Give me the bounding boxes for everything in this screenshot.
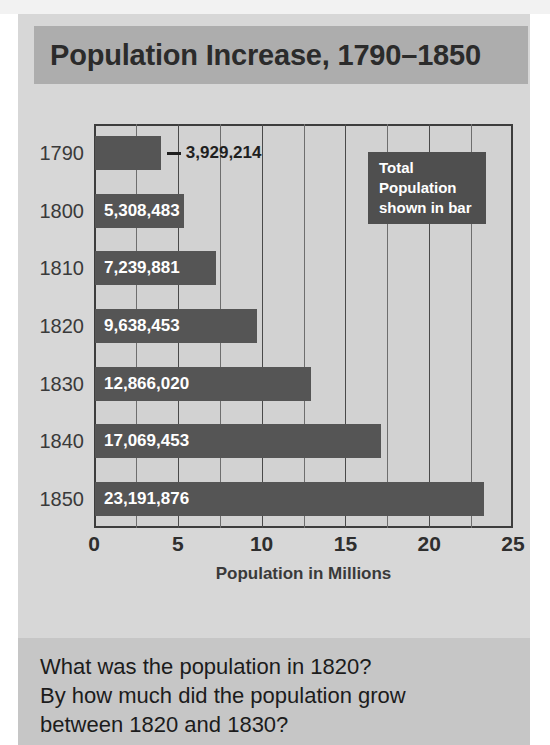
x-tick-label: 25	[501, 532, 524, 556]
bar-value-label: 12,866,020	[104, 374, 189, 394]
question-line: between 1820 and 1830?	[40, 710, 530, 739]
page-title: Population Increase, 1790–1850	[50, 39, 481, 72]
bar-value-label: 3,929,214	[186, 136, 262, 170]
leader-line	[167, 152, 181, 155]
question-block: What was the population in 1820? By how …	[18, 638, 530, 745]
bar	[95, 136, 161, 170]
bar-row: 7,239,881	[94, 251, 513, 285]
year-label-1790: 1790	[18, 136, 84, 170]
question-line: By how much did the population grow	[40, 681, 530, 710]
legend-line: shown in bar	[379, 198, 486, 218]
x-tick-label: 20	[418, 532, 441, 556]
bar-row: 23,191,876	[94, 482, 513, 516]
question-line: What was the population in 1820?	[40, 652, 530, 681]
year-label-1810: 1810	[18, 251, 84, 285]
x-tick-label: 0	[88, 532, 100, 556]
bar: 23,191,876	[95, 482, 484, 516]
bar-row: 9,638,453	[94, 309, 513, 343]
x-tick-label: 15	[334, 532, 357, 556]
x-axis-title: Population in Millions	[94, 564, 513, 584]
year-label-1820: 1820	[18, 309, 84, 343]
bar: 9,638,453	[95, 309, 257, 343]
year-label-1850: 1850	[18, 482, 84, 516]
chart-area: 3,929,2145,308,4837,239,8819,638,45312,8…	[18, 100, 530, 620]
legend-line: Total	[379, 158, 486, 178]
x-tick-label: 5	[172, 532, 184, 556]
bar: 17,069,453	[95, 424, 381, 458]
bar-value-label: 9,638,453	[104, 316, 180, 336]
x-tick-label: 10	[250, 532, 273, 556]
year-label-1840: 1840	[18, 424, 84, 458]
bar: 7,239,881	[95, 251, 216, 285]
bar-value-label: 23,191,876	[104, 489, 189, 509]
scan-artifact	[0, 0, 550, 14]
chart-page: Population Increase, 1790–1850 3,929,214…	[0, 0, 550, 745]
title-banner: Population Increase, 1790–1850	[34, 26, 528, 84]
bar-row: 12,866,020	[94, 367, 513, 401]
bar-value-label: 17,069,453	[104, 431, 189, 451]
year-label-1830: 1830	[18, 367, 84, 401]
year-label-1800: 1800	[18, 194, 84, 228]
x-axis-ticks: 0510152025	[94, 532, 513, 560]
bar-value-label: 7,239,881	[104, 258, 180, 278]
bar: 12,866,020	[95, 367, 311, 401]
legend-line: Population	[379, 178, 486, 198]
bar-value-label: 5,308,483	[104, 201, 180, 221]
legend: Total Population shown in bar	[368, 152, 486, 224]
bar-row: 17,069,453	[94, 424, 513, 458]
bar: 5,308,483	[95, 194, 184, 228]
